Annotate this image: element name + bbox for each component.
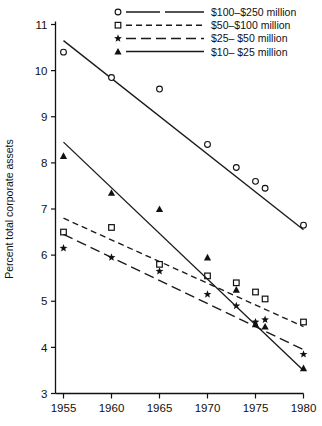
data-point-open-circle xyxy=(262,185,268,191)
chart-container: $100–$250 million$50–$100 million$25– $5… xyxy=(0,0,322,426)
data-point-open-square xyxy=(115,22,121,28)
y-tick-label: 9 xyxy=(41,111,47,123)
y-tick-label: 11 xyxy=(36,19,48,31)
y-tick-label: 5 xyxy=(41,295,47,307)
y-tick-label: 10 xyxy=(35,65,48,77)
data-point-open-circle xyxy=(205,142,211,148)
data-point-open-square xyxy=(61,229,67,235)
x-tick-label: 1970 xyxy=(195,402,221,414)
legend-label: $25– $50 million xyxy=(211,32,288,44)
data-point-open-square xyxy=(157,262,163,268)
x-tick-label: 1980 xyxy=(291,402,317,414)
y-tick-label: 6 xyxy=(41,249,47,261)
y-tick-label: 4 xyxy=(41,342,48,354)
y-axis-title-text: Percent total corporate assets xyxy=(3,139,15,279)
legend-label: $10– $25 million xyxy=(211,46,288,58)
data-point-open-square xyxy=(301,319,307,325)
data-point-open-circle xyxy=(157,86,163,92)
data-point-open-circle xyxy=(61,49,67,55)
x-tick-label: 1975 xyxy=(243,402,269,414)
x-tick-label: 1960 xyxy=(99,402,125,414)
data-point-open-square xyxy=(234,280,240,286)
data-point-open-square xyxy=(253,289,259,295)
data-point-open-circle xyxy=(115,9,121,15)
x-tick-label: 1965 xyxy=(147,402,173,414)
data-point-open-square xyxy=(109,225,115,231)
data-point-open-circle xyxy=(301,222,307,228)
y-tick-label: 3 xyxy=(41,388,47,400)
y-axis-title: Percent total corporate assets xyxy=(3,139,15,279)
data-point-open-circle xyxy=(253,178,259,184)
data-point-open-circle xyxy=(233,165,239,171)
percent-total-corporate-assets-chart: $100–$250 million$50–$100 million$25– $5… xyxy=(0,0,322,426)
y-tick-label: 8 xyxy=(41,157,47,169)
x-tick-label: 1955 xyxy=(51,402,77,414)
y-tick-label: 7 xyxy=(41,203,47,215)
legend-label: $100–$250 million xyxy=(211,6,296,18)
chart-background xyxy=(0,0,322,426)
data-point-open-square xyxy=(262,296,268,302)
legend-label: $50–$100 million xyxy=(211,19,291,31)
data-point-open-circle xyxy=(109,75,115,81)
